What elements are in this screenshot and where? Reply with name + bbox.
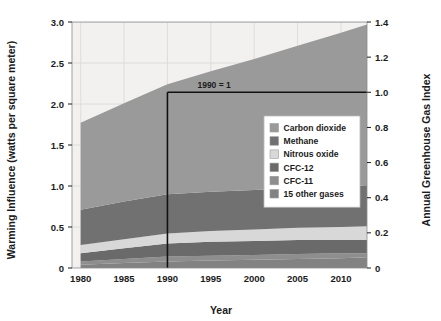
legend-swatch [270,163,279,172]
x-tick-label: 1995 [200,273,222,284]
legend-swatch [270,150,279,159]
x-axis-title: Year [210,304,232,316]
legend-swatch [270,137,279,146]
legend-item[interactable]: CFC-12 [270,163,314,173]
y-tick-label: 1.0 [51,181,64,192]
annotation-1990-equals-1: 1990 = 1 [197,80,231,90]
chart-legend: Carbon dioxideMethaneNitrous oxideCFC-12… [264,116,360,207]
y2-tick-label: 1.4 [375,17,389,28]
greenhouse-gas-chart: 1980198519901995200020052010 00.51.01.52… [0,0,441,321]
y2-tick-label: 1.2 [375,52,388,63]
y-tick-label: 0.5 [51,222,65,233]
x-tick-label: 1985 [113,273,135,284]
y-tick-label: 0 [59,263,64,274]
y2-tick-label: 0.8 [375,122,388,133]
y2-tick-label: 0.4 [375,192,389,203]
y-axis-title: Warming Influence (watts per square mete… [5,41,17,259]
y2-tick-label: 0.2 [375,227,388,238]
legend-label: CFC-12 [284,163,314,173]
x-tick-label: 1980 [70,273,91,284]
x-tick-label: 2005 [287,273,309,284]
y2-tick-label: 0 [375,263,380,274]
legend-label: CFC-11 [284,176,314,186]
y-tick-label: 3.0 [51,17,64,28]
y2-axis-title: Annual Greenhouse Gas Index [420,73,432,226]
y2-tick-label: 0.6 [375,157,388,168]
legend-label: Nitrous oxide [284,149,339,159]
legend-label: Carbon dioxide [284,123,347,133]
x-tick-label: 1990 [157,273,178,284]
chart-annotations: 1990 = 1 [197,80,231,90]
legend-item[interactable]: Methane [270,136,319,146]
legend-item[interactable]: CFC-11 [270,176,313,186]
chart-canvas: 1980198519901995200020052010 00.51.01.52… [0,0,441,321]
legend-label: Methane [284,136,319,146]
legend-swatch [270,124,279,133]
legend-swatch [270,176,279,185]
y-tick-label: 2.0 [51,99,64,110]
y2-tick-label: 1.0 [375,87,388,98]
y-tick-label: 1.5 [51,140,65,151]
legend-swatch [270,190,279,199]
y-tick-label: 2.5 [51,58,65,69]
x-tick-label: 2000 [244,273,265,284]
legend-label: 15 other gases [284,189,344,199]
x-tick-label: 2010 [330,273,351,284]
